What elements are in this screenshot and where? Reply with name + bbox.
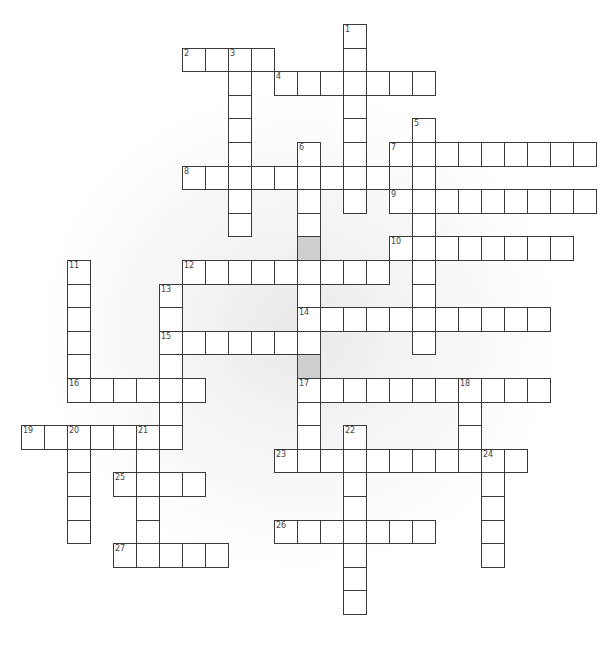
grid-cell[interactable] [481, 378, 505, 403]
grid-cell[interactable] [435, 142, 459, 167]
grid-cell[interactable] [366, 520, 390, 545]
grid-cell[interactable] [343, 543, 367, 568]
grid-cell[interactable] [550, 236, 574, 261]
grid-cell[interactable] [67, 331, 91, 356]
grid-cell[interactable] [435, 236, 459, 261]
grid-cell[interactable] [412, 71, 436, 96]
grid-cell[interactable] [366, 449, 390, 474]
grid-cell[interactable] [228, 71, 252, 96]
grid-cell[interactable] [550, 142, 574, 167]
grid-cell[interactable] [297, 166, 321, 191]
grid-cell[interactable] [320, 378, 344, 403]
grid-cell[interactable] [458, 236, 482, 261]
grid-cell[interactable]: 15 [159, 331, 183, 356]
grid-cell[interactable] [366, 260, 390, 285]
grid-cell[interactable] [504, 236, 528, 261]
grid-cell[interactable] [481, 543, 505, 568]
grid-cell[interactable] [389, 378, 413, 403]
grid-cell[interactable] [251, 48, 275, 73]
grid-cell[interactable] [297, 213, 321, 238]
grid-cell[interactable] [320, 166, 344, 191]
grid-cell[interactable] [136, 472, 160, 497]
grid-cell[interactable] [136, 378, 160, 403]
grid-cell[interactable] [481, 472, 505, 497]
grid-cell[interactable] [228, 118, 252, 143]
grid-cell[interactable] [343, 449, 367, 474]
grid-cell[interactable] [412, 331, 436, 356]
grid-cell[interactable] [320, 260, 344, 285]
grid-cell[interactable] [481, 236, 505, 261]
grid-cell[interactable] [297, 331, 321, 356]
grid-cell[interactable] [343, 118, 367, 143]
grid-cell[interactable] [159, 472, 183, 497]
grid-cell[interactable]: 12 [182, 260, 206, 285]
grid-cell[interactable] [159, 378, 183, 403]
grid-cell[interactable] [320, 71, 344, 96]
grid-cell[interactable] [504, 142, 528, 167]
grid-cell[interactable] [205, 260, 229, 285]
grid-cell[interactable]: 8 [182, 166, 206, 191]
grid-cell[interactable] [320, 307, 344, 332]
grid-cell[interactable] [228, 142, 252, 167]
grid-cell[interactable] [228, 213, 252, 238]
grid-cell[interactable] [297, 284, 321, 309]
grid-cell[interactable] [136, 449, 160, 474]
grid-cell[interactable] [458, 307, 482, 332]
grid-cell[interactable] [412, 260, 436, 285]
shaded-grid-cell[interactable] [297, 354, 321, 379]
grid-cell[interactable] [343, 260, 367, 285]
grid-cell[interactable] [343, 520, 367, 545]
grid-cell[interactable] [182, 543, 206, 568]
grid-cell[interactable] [412, 378, 436, 403]
grid-cell[interactable]: 4 [274, 71, 298, 96]
grid-cell[interactable] [320, 520, 344, 545]
grid-cell[interactable] [343, 48, 367, 73]
grid-cell[interactable] [527, 378, 551, 403]
grid-cell[interactable] [481, 189, 505, 214]
grid-cell[interactable] [435, 449, 459, 474]
grid-cell[interactable]: 9 [389, 189, 413, 214]
grid-cell[interactable]: 18 [458, 378, 482, 403]
grid-cell[interactable] [251, 260, 275, 285]
grid-cell[interactable] [504, 449, 528, 474]
grid-cell[interactable] [343, 95, 367, 120]
grid-cell[interactable] [228, 95, 252, 120]
grid-cell[interactable] [297, 425, 321, 450]
grid-cell[interactable]: 22 [343, 425, 367, 450]
grid-cell[interactable] [67, 307, 91, 332]
grid-cell[interactable] [205, 166, 229, 191]
grid-cell[interactable]: 3 [228, 48, 252, 73]
grid-cell[interactable] [228, 166, 252, 191]
grid-cell[interactable] [527, 189, 551, 214]
grid-cell[interactable] [90, 378, 114, 403]
grid-cell[interactable] [412, 520, 436, 545]
grid-cell[interactable] [504, 378, 528, 403]
grid-cell[interactable]: 24 [481, 449, 505, 474]
grid-cell[interactable]: 2 [182, 48, 206, 73]
grid-cell[interactable] [389, 307, 413, 332]
grid-cell[interactable] [389, 449, 413, 474]
grid-cell[interactable] [481, 520, 505, 545]
grid-cell[interactable] [44, 425, 68, 450]
grid-cell[interactable] [458, 425, 482, 450]
grid-cell[interactable] [205, 543, 229, 568]
grid-cell[interactable] [412, 189, 436, 214]
grid-cell[interactable] [458, 189, 482, 214]
grid-cell[interactable] [67, 496, 91, 521]
grid-cell[interactable] [343, 142, 367, 167]
grid-cell[interactable]: 1 [343, 24, 367, 49]
grid-cell[interactable]: 25 [113, 472, 137, 497]
grid-cell[interactable] [228, 260, 252, 285]
grid-cell[interactable] [527, 142, 551, 167]
grid-cell[interactable] [412, 166, 436, 191]
grid-cell[interactable]: 11 [67, 260, 91, 285]
grid-cell[interactable] [182, 472, 206, 497]
grid-cell[interactable]: 17 [297, 378, 321, 403]
grid-cell[interactable] [274, 260, 298, 285]
grid-cell[interactable] [251, 166, 275, 191]
grid-cell[interactable] [113, 378, 137, 403]
grid-cell[interactable] [297, 449, 321, 474]
grid-cell[interactable] [343, 71, 367, 96]
grid-cell[interactable] [90, 425, 114, 450]
grid-cell[interactable] [458, 142, 482, 167]
